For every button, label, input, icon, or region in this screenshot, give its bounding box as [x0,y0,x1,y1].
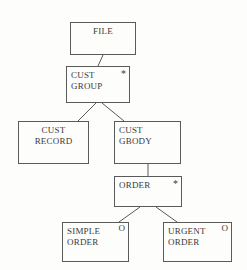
node-file-label: FILE [71,26,135,37]
node-cust-record-label: CUST RECORD [19,125,88,146]
node-cust-group[interactable]: CUST GROUP * [66,66,130,103]
node-urgent-order[interactable]: URGENT ORDER O [163,222,232,262]
selection-marker-simple-order: O [119,224,126,233]
iteration-marker-order: * [173,179,178,188]
node-cust-gbody[interactable]: CUST GBODY [114,121,181,164]
node-simple-order[interactable]: SIMPLE ORDER O [62,222,129,262]
edge-cust-group-to-cust-gbody [102,103,124,121]
node-simple-order-label: SIMPLE ORDER [67,226,114,247]
edge-order-to-urgent-order [156,207,177,222]
edge-file-to-cust-group [98,55,103,66]
node-cust-group-label: CUST GROUP [71,70,115,91]
edge-order-to-simple-order [119,207,140,222]
diagram-canvas: FILE CUST GROUP * CUST RECORD CUST GBODY… [0,0,247,270]
node-file[interactable]: FILE [70,22,136,55]
selection-marker-urgent-order: O [222,224,229,233]
iteration-marker-cust-group: * [121,69,126,78]
node-order-label: ORDER [119,180,167,191]
node-cust-record[interactable]: CUST RECORD [18,121,89,164]
node-cust-gbody-label: CUST GBODY [119,125,166,146]
node-urgent-order-label: URGENT ORDER [168,226,217,247]
edge-cust-group-to-cust-record [78,103,96,121]
node-order[interactable]: ORDER * [114,176,182,207]
